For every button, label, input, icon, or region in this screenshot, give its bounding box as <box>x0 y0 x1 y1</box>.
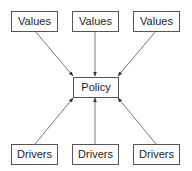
node-label: Values <box>79 16 112 27</box>
edge-values-left-to-policy <box>35 31 73 76</box>
node-drivers-center: Drivers <box>72 144 119 165</box>
node-label: Values <box>18 16 51 27</box>
node-values-left: Values <box>11 11 58 32</box>
edge-drivers-right-to-policy <box>118 98 156 144</box>
node-drivers-right: Drivers <box>133 144 180 165</box>
node-label: Drivers <box>17 149 52 160</box>
policy-diagram: Values Values Values Policy Drivers Driv… <box>0 0 192 171</box>
node-label: Drivers <box>139 149 174 160</box>
node-label: Policy <box>81 82 110 93</box>
edge-drivers-left-to-policy <box>35 98 73 144</box>
node-drivers-left: Drivers <box>11 144 58 165</box>
node-policy: Policy <box>73 77 119 98</box>
node-label: Values <box>140 16 173 27</box>
node-values-right: Values <box>133 11 180 32</box>
node-label: Drivers <box>78 149 113 160</box>
node-values-center: Values <box>72 11 119 32</box>
edge-values-right-to-policy <box>118 31 156 76</box>
